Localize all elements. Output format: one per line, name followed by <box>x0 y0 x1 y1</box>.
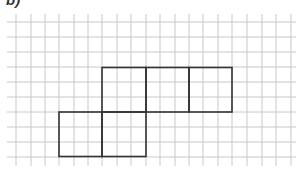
grid-diagram <box>0 0 296 170</box>
net-square <box>189 68 232 113</box>
net-square <box>102 112 146 157</box>
net-shape <box>59 68 232 157</box>
net-square <box>59 112 102 157</box>
net-square <box>102 68 146 113</box>
grid-lines <box>7 14 296 166</box>
net-square <box>146 68 189 113</box>
